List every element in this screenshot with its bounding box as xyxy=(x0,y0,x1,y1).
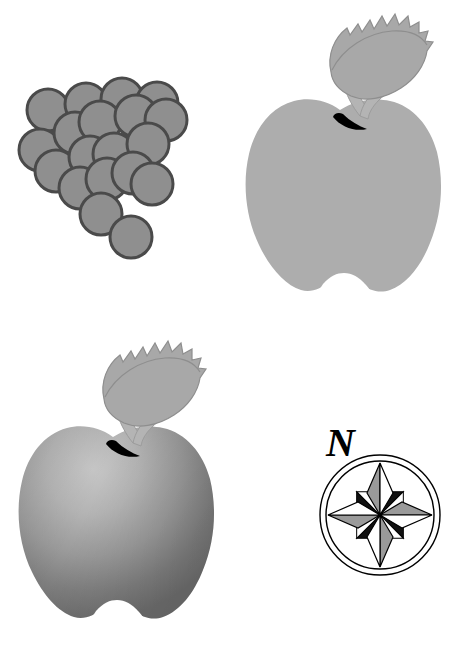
figure-grape-cluster xyxy=(0,0,227,327)
figure-apple-gradient xyxy=(0,327,227,654)
clipart-canvas: N xyxy=(0,0,454,654)
figure-apple-flat xyxy=(227,0,454,327)
apple-body-flat xyxy=(246,99,441,291)
compass-north-label: N xyxy=(227,423,454,463)
apple-leaf-flat xyxy=(330,14,433,99)
grape-berry xyxy=(131,163,173,205)
apple-body-shade-gradient xyxy=(19,426,214,618)
compass-rose-svg xyxy=(227,327,454,654)
apple-leaf-gradient xyxy=(103,341,206,426)
grape-cluster-svg xyxy=(0,0,227,327)
apple-gradient-svg xyxy=(0,327,227,654)
figure-compass-rose: N xyxy=(227,327,454,654)
apple-flat-svg xyxy=(227,0,454,327)
grape-berry-group xyxy=(19,78,187,258)
grape-berry xyxy=(110,216,152,258)
